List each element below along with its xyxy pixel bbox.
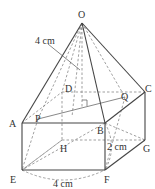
line-OQ xyxy=(82,23,125,97)
label-O: O xyxy=(78,9,85,20)
label-P: P xyxy=(35,113,41,124)
line-BG xyxy=(105,123,145,140)
label-base-length: 4 cm xyxy=(53,178,73,189)
edge-AD xyxy=(22,92,62,123)
edge-OB xyxy=(82,23,105,123)
line-PE xyxy=(22,119,38,170)
label-C: C xyxy=(145,83,152,94)
leader-4cm xyxy=(48,44,80,70)
edge-OC xyxy=(82,23,145,92)
vertex-labels: O A B C D E F G H P Q xyxy=(9,9,152,185)
label-D: D xyxy=(65,83,72,94)
measurement-labels: 4 cm 2 cm 4 cm xyxy=(35,35,127,189)
geometry-diagram: O A B C D E F G H P Q 4 cm 2 cm 4 cm xyxy=(0,0,155,189)
label-B: B xyxy=(97,125,104,136)
label-F: F xyxy=(104,174,110,185)
line-QF xyxy=(105,97,125,170)
label-G: G xyxy=(143,143,150,154)
label-height: 2 cm xyxy=(107,141,127,152)
right-angle-mark xyxy=(82,100,87,106)
label-slant-length: 4 cm xyxy=(35,35,55,46)
label-Q: Q xyxy=(121,91,129,102)
label-A: A xyxy=(9,118,17,129)
label-H: H xyxy=(60,143,67,154)
label-E: E xyxy=(10,174,16,185)
